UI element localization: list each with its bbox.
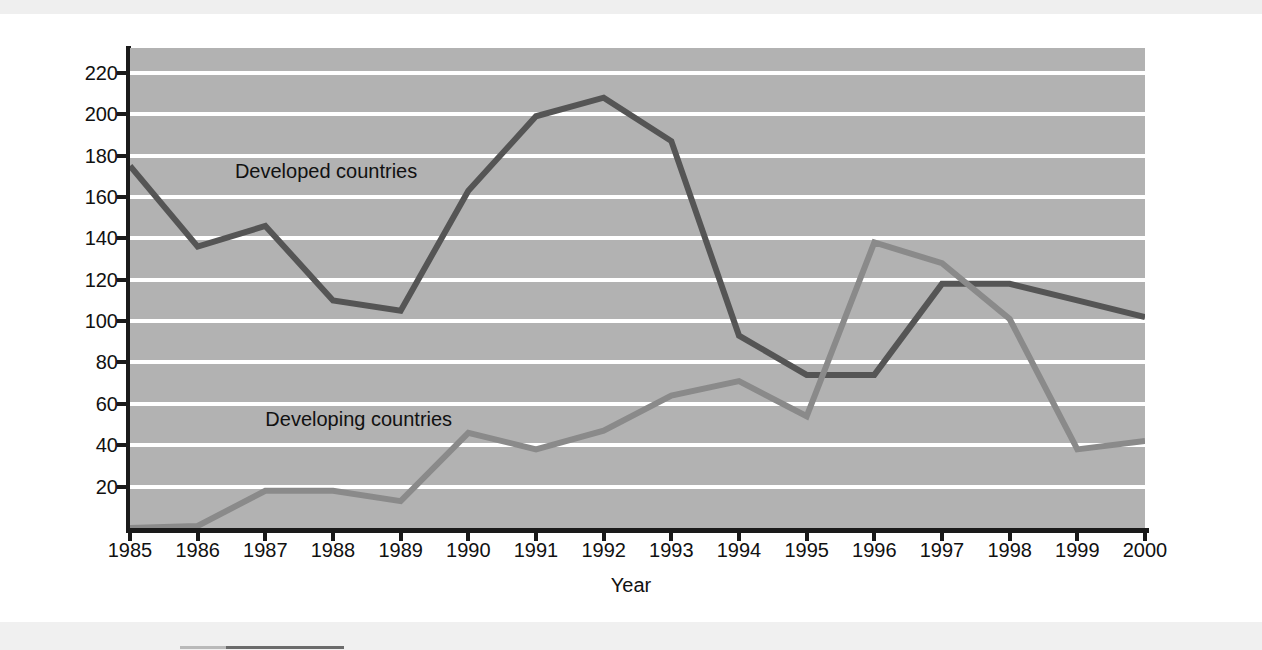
- x-tick-label-1995: 1995: [784, 540, 829, 560]
- y-tick-label-20: 20: [10, 477, 118, 497]
- x-tick-label-1987: 1987: [243, 540, 288, 560]
- scan-artifact-dark: [226, 646, 344, 649]
- x-tick-label-1986: 1986: [175, 540, 220, 560]
- y-tick-label-180: 180: [10, 146, 118, 166]
- figure-page: 20406080100120140160180200220 Number of …: [0, 0, 1262, 650]
- scan-artifact-light: [180, 646, 226, 649]
- y-tick-label-40: 40: [10, 435, 118, 455]
- y-tick-label-140: 140: [10, 228, 118, 248]
- x-tick-label-1996: 1996: [852, 540, 897, 560]
- x-tick-label-1989: 1989: [378, 540, 423, 560]
- x-tick-label-1988: 1988: [311, 540, 356, 560]
- y-tick-label-120: 120: [10, 270, 118, 290]
- x-tick-label-1999: 1999: [1055, 540, 1100, 560]
- y-axis-tick-labels: 20406080100120140160180200220: [0, 48, 118, 528]
- line-chart: 20406080100120140160180200220 Number of …: [0, 14, 1262, 622]
- x-axis-title: Year: [0, 574, 1262, 597]
- x-tick-label-2000: 2000: [1123, 540, 1168, 560]
- y-tick-label-60: 60: [10, 394, 118, 414]
- y-tick-label-200: 200: [10, 104, 118, 124]
- plot-area: [130, 48, 1145, 528]
- x-tick-label-1993: 1993: [649, 540, 694, 560]
- series-lines: [130, 48, 1145, 528]
- x-tick-label-1985: 1985: [108, 540, 153, 560]
- x-tick-label-1992: 1992: [581, 540, 626, 560]
- x-tick-label-1991: 1991: [514, 540, 559, 560]
- series-label-developed: Developed countries: [235, 160, 417, 183]
- x-axis-line: [126, 528, 1149, 533]
- y-tick-label-80: 80: [10, 352, 118, 372]
- y-tick-label-220: 220: [10, 63, 118, 83]
- x-tick-label-1990: 1990: [446, 540, 491, 560]
- series-line-developed: [130, 98, 1145, 375]
- plot-inner: [130, 48, 1145, 528]
- y-tick-label-100: 100: [10, 311, 118, 331]
- y-tick-label-160: 160: [10, 187, 118, 207]
- x-axis-tick-labels: 1985198619871988198919901991199219931994…: [130, 540, 1145, 574]
- series-label-developing: Developing countries: [265, 408, 452, 431]
- x-tick-label-1994: 1994: [717, 540, 762, 560]
- scan-band-top: [0, 0, 1262, 14]
- x-tick-label-1998: 1998: [987, 540, 1032, 560]
- x-tick-label-1997: 1997: [920, 540, 965, 560]
